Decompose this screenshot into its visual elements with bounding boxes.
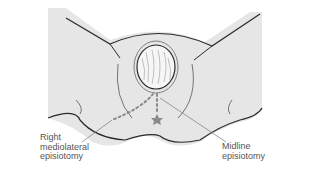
midline-label: Midline episiotomy bbox=[222, 142, 265, 161]
label-line: episiotomy bbox=[40, 152, 89, 162]
crowning-head bbox=[137, 45, 175, 89]
label-line: episiotomy bbox=[222, 152, 265, 162]
right-mediolateral-label: Right mediolateral episiotomy bbox=[40, 133, 89, 162]
